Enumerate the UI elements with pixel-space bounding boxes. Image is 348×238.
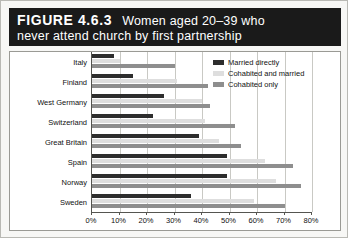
y-axis-labels: ItalyFinlandWest GermanySwitzerlandGreat… [10, 52, 91, 212]
x-axis-tick [284, 212, 285, 215]
x-axis-tick [119, 212, 120, 215]
y-axis-label: Finland [62, 78, 87, 87]
x-axis-label: 20% [138, 216, 153, 225]
bar [92, 119, 205, 123]
bar-group [92, 132, 312, 152]
x-axis-label: 40% [193, 216, 208, 225]
bar [92, 99, 202, 103]
bar [92, 144, 241, 148]
legend-swatch-icon [213, 60, 224, 65]
bar [92, 54, 114, 58]
bar [92, 114, 153, 118]
legend-swatch-icon [213, 82, 224, 87]
figure-title-main: Women aged 20–39 who [122, 14, 265, 28]
figure-number: FIGURE 4.6.3 [17, 12, 112, 28]
chart-plot-frame: ItalyFinlandWest GermanySwitzerlandGreat… [9, 51, 341, 231]
x-axis-label: 50% [221, 216, 236, 225]
x-axis-tick [256, 212, 257, 215]
bar [92, 74, 133, 78]
figure-container: FIGURE 4.6.3Women aged 20–39 who never a… [0, 0, 348, 238]
bar-group [92, 92, 312, 112]
bar [92, 199, 254, 203]
x-axis-label: 70% [276, 216, 291, 225]
x-axis-tick [201, 212, 202, 215]
bar [92, 164, 293, 168]
y-axis-label: Sweden [60, 198, 87, 207]
bar-group [92, 192, 312, 212]
bar [92, 84, 208, 88]
y-axis-label: Italy [73, 58, 87, 67]
figure-title-line-2: never attend church by first partnership [17, 28, 335, 44]
legend-item-label: Married directly [228, 58, 279, 67]
x-axis-tick [146, 212, 147, 215]
figure-title-bar: FIGURE 4.6.3Women aged 20–39 who never a… [9, 8, 341, 46]
legend-swatch-icon [213, 71, 224, 76]
y-axis-label: Great Britain [45, 138, 87, 147]
legend-item-label: Cohabited and married [228, 69, 304, 78]
bar [92, 184, 301, 188]
legend-item-label: Cohabited only [228, 80, 278, 89]
x-axis-label: 0% [86, 216, 97, 225]
x-axis-tick [311, 212, 312, 215]
bar [92, 94, 164, 98]
y-axis-label: West Germany [37, 98, 87, 107]
legend-item: Cohabited and married [213, 68, 323, 78]
bar-group [92, 152, 312, 172]
x-axis-tick [174, 212, 175, 215]
bar-group [92, 172, 312, 192]
bar [92, 79, 177, 83]
legend-item: Married directly [213, 57, 323, 67]
y-axis-label: Switzerland [48, 118, 87, 127]
figure-title-line-1: FIGURE 4.6.3Women aged 20–39 who [17, 11, 335, 28]
bar [92, 204, 285, 208]
x-axis-label: 80% [303, 216, 318, 225]
x-axis-label: 10% [111, 216, 126, 225]
bar [92, 64, 175, 68]
x-axis-label: 60% [248, 216, 263, 225]
y-axis-label: Spain [68, 158, 87, 167]
bar [92, 194, 191, 198]
bar [92, 139, 219, 143]
bar [92, 124, 235, 128]
bar [92, 104, 210, 108]
bar [92, 59, 120, 63]
y-axis-label: Norway [62, 178, 87, 187]
chart-legend: Married directlyCohabited and marriedCoh… [213, 57, 323, 90]
x-axis-tick [229, 212, 230, 215]
bar [92, 154, 227, 158]
bar [92, 174, 227, 178]
legend-item: Cohabited only [213, 79, 323, 89]
x-axis-tick [91, 212, 92, 215]
bar [92, 179, 276, 183]
bar [92, 134, 199, 138]
x-axis-label: 30% [166, 216, 181, 225]
bar-group [92, 112, 312, 132]
bar [92, 159, 265, 163]
